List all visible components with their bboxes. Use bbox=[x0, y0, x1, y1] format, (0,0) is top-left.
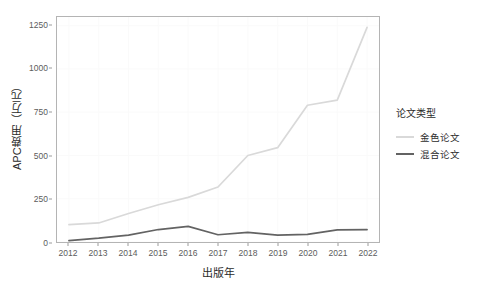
x-tick-mark bbox=[158, 243, 159, 246]
x-tick-mark bbox=[308, 243, 309, 246]
x-tick-label: 2012 bbox=[59, 248, 78, 258]
x-tick-label: 2019 bbox=[269, 248, 288, 258]
legend: 论文类型 金色论文混合论文 bbox=[396, 105, 474, 162]
x-tick-label: 2020 bbox=[299, 248, 318, 258]
x-tick-mark bbox=[68, 243, 69, 246]
x-tick-mark bbox=[278, 243, 279, 246]
x-tick-mark bbox=[248, 243, 249, 246]
x-tick-mark bbox=[98, 243, 99, 246]
x-tick-mark bbox=[218, 243, 219, 246]
x-tick-mark bbox=[368, 243, 369, 246]
x-axis-title: 出版年 bbox=[56, 264, 380, 280]
legend-color-swatch bbox=[396, 148, 414, 159]
x-tick-label: 2014 bbox=[119, 248, 138, 258]
legend-item[interactable]: 金色论文 bbox=[396, 128, 474, 145]
x-tick-label: 2022 bbox=[359, 248, 378, 258]
legend-items: 金色论文混合论文 bbox=[396, 128, 474, 162]
legend-label: 金色论文 bbox=[420, 130, 460, 144]
legend-label: 混合论文 bbox=[420, 147, 460, 161]
x-tick-mark bbox=[128, 243, 129, 246]
x-tick-label: 2018 bbox=[239, 248, 258, 258]
legend-title: 论文类型 bbox=[396, 105, 474, 120]
x-tick-label: 2013 bbox=[89, 248, 108, 258]
chart-container: APC费用（万元） 025050075010001250 20122013201… bbox=[0, 0, 478, 284]
x-tick-label: 2017 bbox=[209, 248, 228, 258]
x-tick-mark bbox=[188, 243, 189, 246]
x-tick-mark bbox=[338, 243, 339, 246]
x-tick-label: 2021 bbox=[329, 248, 348, 258]
x-tick-label: 2015 bbox=[149, 248, 168, 258]
legend-color-swatch bbox=[396, 131, 414, 142]
x-tick-label: 2016 bbox=[179, 248, 198, 258]
legend-item[interactable]: 混合论文 bbox=[396, 145, 474, 162]
